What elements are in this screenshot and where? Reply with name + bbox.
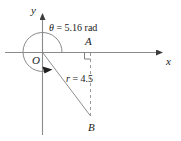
angle-equals: =	[54, 22, 65, 33]
y-axis-label: y	[31, 5, 36, 16]
point-a-label: A	[85, 36, 92, 47]
x-axis-label: x	[166, 56, 171, 67]
radius-annotation: r = 4.5	[66, 74, 93, 84]
polar-coordinate-figure: y x O A B θ = 5.16 rad r = 4.5	[0, 0, 181, 141]
right-angle-marker	[85, 53, 91, 59]
radius-equals: =	[70, 73, 81, 84]
angle-arc-arrowhead	[43, 67, 53, 74]
angle-annotation: θ = 5.16 rad	[49, 23, 97, 33]
radius-value: 4.5	[81, 73, 94, 84]
point-b-label: B	[88, 122, 95, 133]
angle-value: 5.16	[65, 22, 83, 33]
terminal-ray-OB	[43, 53, 91, 116]
origin-label: O	[32, 55, 40, 66]
angle-unit: rad	[82, 22, 97, 33]
